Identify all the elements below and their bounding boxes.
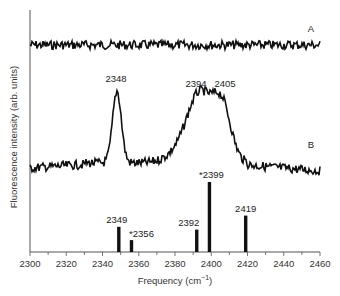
x-tick-label: 2400 — [201, 258, 222, 269]
x-tick-label: 2360 — [128, 258, 149, 269]
stick-bar-2419 — [244, 216, 247, 252]
stick-label-2349: 2349 — [106, 214, 127, 225]
x-axis-title: Frequency (cm−1) — [138, 274, 213, 286]
peak-label-2405: 2405 — [214, 78, 235, 89]
x-tick-label: 2420 — [237, 258, 258, 269]
y-axis-title: Fluorescence intensity (arb. units) — [8, 66, 19, 209]
stick-bar-2392 — [195, 230, 198, 252]
stick-label-2399: *2399 — [199, 169, 224, 180]
x-axis-tick-labels: 230023202340236023802400242024402460 — [19, 258, 330, 269]
peak-label-2394: 2394 — [185, 78, 206, 89]
stick-spectrum-labels: 2349*23562392*23992419 — [106, 169, 256, 239]
trace-b-label: B — [308, 139, 314, 150]
stick-label-2419: 2419 — [235, 203, 256, 214]
stick-bar-2399 — [208, 182, 211, 252]
x-tick-label: 2340 — [92, 258, 113, 269]
x-tick-label: 2380 — [164, 258, 185, 269]
trace-b-line — [30, 86, 320, 175]
x-tick-label: 2440 — [273, 258, 294, 269]
trace-a-label: A — [308, 23, 315, 34]
x-tick-label: 2300 — [19, 258, 40, 269]
x-axis-ticks — [30, 252, 320, 256]
x-tick-label: 2320 — [56, 258, 77, 269]
stick-label-2356: *2356 — [129, 228, 154, 239]
stick-bar-2349 — [117, 227, 120, 252]
spectrum-chart: 230023202340236023802400242024402460 Flu… — [0, 0, 340, 296]
peak-label-2348: 2348 — [105, 73, 126, 84]
trace-a-line — [30, 41, 320, 50]
stick-label-2392: 2392 — [178, 217, 199, 228]
stick-bar-2356 — [130, 240, 133, 252]
x-tick-label: 2460 — [309, 258, 330, 269]
